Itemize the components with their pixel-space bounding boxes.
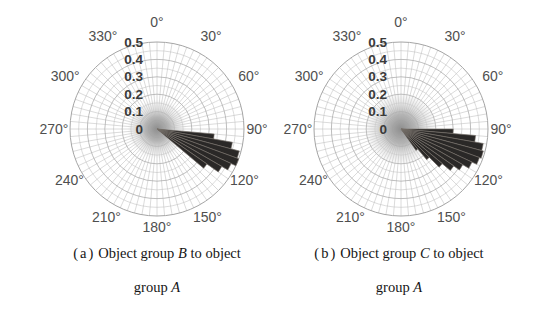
caption-b-line2: group A [261,278,537,297]
angle-label-270: 270° [284,121,313,137]
caption-a-tag: (a) [73,245,95,261]
radial-label-0.3: 0.3 [368,69,387,84]
caption-a-group-from: B [178,245,187,261]
radial-label-0: 0 [379,122,387,137]
radial-label-0.2: 0.2 [124,87,143,102]
angle-label-30: 30° [200,28,221,44]
angle-label-330: 330° [89,28,118,44]
angle-label-180: 180° [387,219,416,235]
radial-label-0.5: 0.5 [124,35,143,50]
charts-row: 0°30°60°90°120°150°180°210°240°270°300°3… [0,0,540,240]
angle-label-270: 270° [40,121,69,137]
caption-a-line1: (a)Object group B to object [19,244,295,263]
rose-chart-a: 0°30°60°90°120°150°180°210°240°270°300°3… [0,0,270,240]
radial-label-0.1: 0.1 [368,104,387,119]
caption-b-text2: to object [430,245,484,261]
radial-label-0.3: 0.3 [124,69,143,84]
radial-label-0.2: 0.2 [368,87,387,102]
radial-label-0.4: 0.4 [124,52,143,67]
caption-b-line2-text: group [376,279,413,295]
angle-label-60: 60° [238,68,259,84]
angle-label-120: 120° [230,172,259,188]
caption-a-line2-text: group [134,279,171,295]
caption-b: (b)Object group C to object group A [261,244,537,297]
radial-label-0: 0 [135,122,143,137]
angle-label-240: 240° [55,172,84,188]
angle-label-90: 90° [246,121,267,137]
radial-label-0.4: 0.4 [368,52,387,67]
angle-label-210: 210° [92,209,121,225]
angle-label-210: 210° [336,209,365,225]
figure: 0°30°60°90°120°150°180°210°240°270°300°3… [0,0,540,328]
caption-a-text: Object group [98,245,178,261]
rose-chart-b: 0°30°60°90°120°150°180°210°240°270°300°3… [270,0,540,240]
angle-label-60: 60° [482,68,503,84]
caption-b-group-to: A [413,279,422,295]
angle-label-150: 150° [437,209,466,225]
angle-label-300: 300° [295,68,324,84]
angle-label-330: 330° [333,28,362,44]
angle-label-180: 180° [143,219,172,235]
angle-label-240: 240° [299,172,328,188]
caption-b-line1: (b)Object group C to object [261,244,537,263]
radial-label-0.1: 0.1 [124,104,143,119]
angle-label-90: 90° [490,121,511,137]
caption-a-text2: to object [187,245,241,261]
angle-label-150: 150° [193,209,222,225]
caption-a: (a)Object group B to object group A [19,244,295,297]
radial-label-0.5: 0.5 [368,35,387,50]
caption-a-group-to: A [171,279,180,295]
caption-b-group-from: C [420,245,430,261]
angle-label-300: 300° [51,68,80,84]
angle-label-0: 0° [150,14,163,30]
caption-a-line2: group A [19,278,295,297]
angle-label-30: 30° [444,28,465,44]
caption-b-text: Object group [340,245,420,261]
angle-label-0: 0° [394,14,407,30]
caption-b-tag: (b) [314,245,337,261]
angle-label-120: 120° [474,172,503,188]
